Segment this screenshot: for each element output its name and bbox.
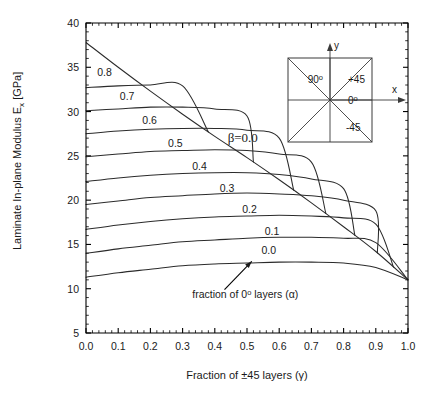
y-tick-label: 5	[73, 327, 79, 339]
y-tick-label: 40	[67, 17, 79, 29]
x-tick-label: 0.8	[336, 340, 351, 352]
x-tick-label: 0.6	[272, 340, 287, 352]
curve-label: 0.3	[220, 182, 235, 194]
inset-y-axis-label: y	[334, 40, 339, 51]
y-tick-label: 10	[67, 283, 79, 295]
inset-label-plus45: +45	[348, 74, 365, 85]
curve-label: 0.1	[265, 225, 280, 237]
curve-label: 0.5	[168, 137, 183, 149]
x-axis-title-text: Fraction of ±45 layers (γ)	[186, 369, 308, 381]
x-tick-label: 0.7	[304, 340, 319, 352]
curve-label: 0.6	[142, 114, 157, 126]
x-tick-label: 0.4	[207, 340, 222, 352]
y-axis-title-unit: [GPa]	[11, 72, 23, 103]
x-tick-label: 0.1	[111, 340, 126, 352]
y-axis-title-text: Laminate In-plane Modulus E	[11, 107, 23, 250]
beta-curve-label: β=0.0	[228, 130, 258, 145]
curve-label: 0.7	[120, 90, 135, 102]
curve-label: 0.2	[242, 203, 257, 215]
x-axis-title: Fraction of ±45 layers (γ)	[186, 369, 308, 381]
curve-label: 0.0	[261, 244, 276, 256]
x-tick-label: 0.2	[143, 340, 158, 352]
x-tick-label: 0.5	[240, 340, 255, 352]
x-tick-label: 0.0	[79, 340, 94, 352]
inset-x-axis-label: x	[392, 84, 397, 95]
y-tick-label: 30	[67, 106, 79, 118]
y-tick-label: 20	[67, 194, 79, 206]
annotation-text: fraction of 0o layers (α)	[192, 288, 298, 300]
y-tick-label: 15	[67, 238, 79, 250]
x-tick-label: 0.9	[368, 340, 383, 352]
laminate-modulus-chart: 0.00.10.20.30.40.50.60.70.80.91.05101520…	[0, 0, 431, 399]
inset-label-minus45: -45	[346, 122, 361, 133]
x-tick-label: 0.3	[175, 340, 190, 352]
curve-label: 0.4	[192, 160, 207, 172]
curve-label: 0.8	[97, 66, 112, 78]
chart-figure: 0.00.10.20.30.40.50.60.70.80.91.05101520…	[0, 0, 431, 399]
y-tick-label: 35	[67, 61, 79, 73]
y-tick-label: 25	[67, 150, 79, 162]
x-tick-label: 1.0	[401, 340, 416, 352]
beta-label: β=0.0	[228, 130, 258, 145]
